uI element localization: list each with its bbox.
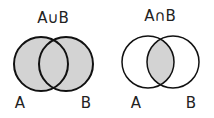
intersection-label-b: B: [186, 94, 196, 112]
intersection-diagram: A∩B A B: [122, 7, 199, 112]
union-label-a: A: [15, 94, 26, 112]
venn-diagrams: A∪B A B A∩B A B: [0, 0, 214, 118]
intersection-title: A∩B: [144, 7, 176, 25]
union-diagram: A∪B A B: [14, 9, 93, 112]
union-label-b: B: [81, 94, 91, 112]
intersection-label-a: A: [131, 94, 142, 112]
union-title: A∪B: [37, 9, 69, 27]
